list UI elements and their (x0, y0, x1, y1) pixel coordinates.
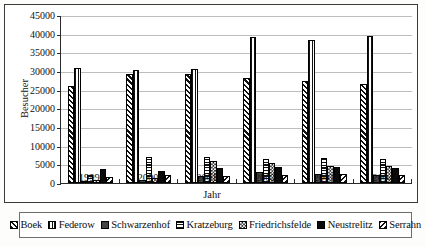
y-tick-label: 20000 (11, 104, 55, 114)
y-tick-label: 30000 (11, 67, 55, 77)
plot-area (60, 16, 412, 184)
x-tick-label: 2004 (353, 172, 412, 188)
y-tick-label: 0 (11, 179, 55, 189)
legend-swatch-icon (379, 221, 387, 229)
bar-group (61, 16, 120, 183)
bar (191, 69, 197, 183)
legend-label: Boek (20, 220, 42, 231)
legend-label: Friedrichsfelde (249, 220, 311, 231)
chart-plot-frame: Besucher Jahr 05000100001500020000250003… (4, 4, 418, 203)
y-tick-label: 40000 (11, 30, 55, 40)
bar (367, 36, 373, 183)
legend-label: Federow (59, 220, 95, 231)
y-tick-label: 35000 (11, 48, 55, 58)
bar-group (237, 16, 296, 183)
bar-group (295, 16, 354, 183)
legend-label: Schwarzenhof (111, 220, 170, 231)
legend-swatch-icon (317, 221, 325, 229)
legend-label: Neustrelitz (328, 220, 373, 231)
y-tick-label: 5000 (11, 160, 55, 170)
bar (74, 68, 80, 183)
x-tick-label: 1999 (60, 172, 119, 188)
legend-swatch-icon (239, 221, 247, 229)
chart-legend: BoekFederowSchwarzenhofKratzeburgFriedri… (19, 212, 412, 238)
x-axis-title: Jahr (5, 189, 419, 200)
bar-groups (61, 16, 412, 183)
legend-entry: Friedrichsfelde (239, 220, 312, 231)
y-tick-label: 45000 (11, 11, 55, 21)
legend-entries: BoekFederowSchwarzenhofKratzeburgFriedri… (10, 220, 421, 231)
y-tick-label: 10000 (11, 142, 55, 152)
x-tick-label: 2001 (177, 172, 236, 188)
legend-swatch-icon (10, 221, 18, 229)
bar (250, 37, 256, 183)
y-tick-label: 15000 (11, 123, 55, 133)
legend-entry: Schwarzenhof (101, 220, 170, 231)
bar-group (120, 16, 179, 183)
legend-entry: Serrahn (379, 220, 421, 231)
bar (133, 70, 139, 183)
x-tick-label: 2000 (119, 172, 178, 188)
bar (308, 40, 314, 183)
legend-entry: Federow (48, 220, 95, 231)
legend-label: Serrahn (389, 220, 421, 231)
chart-screenshot: Besucher Jahr 05000100001500020000250003… (0, 0, 426, 246)
legend-entry: Boek (10, 220, 42, 231)
legend-swatch-icon (176, 221, 184, 229)
legend-swatch-icon (101, 221, 109, 229)
bar-group (354, 16, 413, 183)
legend-label: Kratzeburg (187, 220, 233, 231)
x-axis-tick-labels: 199920002001200220032004 (60, 172, 412, 188)
x-tick-label: 2002 (236, 172, 295, 188)
y-axis-tick-labels: 0500010000150002000025000300003500040000… (11, 16, 55, 184)
x-tick-label: 2003 (295, 172, 354, 188)
legend-entry: Kratzeburg (176, 220, 233, 231)
legend-swatch-icon (48, 221, 56, 229)
legend-entry: Neustrelitz (317, 220, 372, 231)
y-tick-label: 25000 (11, 86, 55, 96)
bar-group (178, 16, 237, 183)
